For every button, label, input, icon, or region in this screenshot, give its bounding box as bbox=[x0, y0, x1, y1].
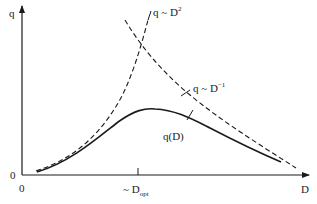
diagram: q D 0 0 ~ Dopt q ~ D2 q ~ D−1 q(D) bbox=[0, 0, 317, 204]
q-of-d-curve bbox=[37, 109, 281, 172]
rising-asymptote-curve bbox=[36, 20, 148, 171]
rising-asymptote-label: q ~ D2 bbox=[153, 5, 182, 18]
y-origin-label: 0 bbox=[10, 169, 16, 181]
falling-asymptote-label: q ~ D−1 bbox=[193, 81, 226, 94]
y-axis-label: q bbox=[9, 7, 15, 19]
q-of-d-label: q(D) bbox=[163, 130, 184, 143]
x-origin-label: 0 bbox=[19, 182, 25, 194]
falling-asymptote-curve bbox=[125, 20, 296, 168]
x-axis-label: D bbox=[301, 183, 309, 195]
d2-leader bbox=[148, 11, 151, 20]
dopt-label: ~ Dopt bbox=[123, 183, 149, 198]
dinv-leader bbox=[181, 90, 190, 96]
